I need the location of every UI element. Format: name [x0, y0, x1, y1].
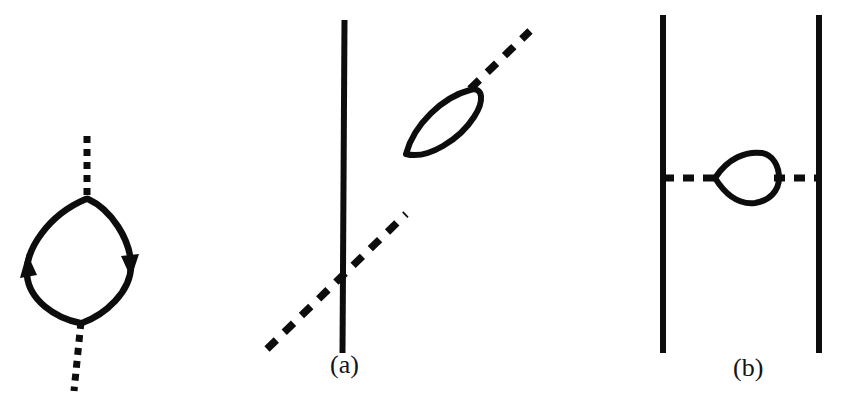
panel-b-label: (b) — [733, 353, 763, 383]
loop-upper-arc-a — [406, 89, 481, 155]
panel-self-energy-bubble — [20, 136, 139, 391]
fermion-loop-left-arc — [27, 199, 86, 323]
arrow-up-icon — [20, 253, 37, 278]
panel-a-label: (a) — [330, 350, 359, 380]
figure-canvas: (a) (b) — [0, 0, 849, 404]
loop-insertion-b — [715, 153, 779, 204]
loop-insertion-a — [406, 89, 481, 155]
dashed-diagonal-lower-a — [267, 214, 406, 349]
panel-b-diagram — [663, 15, 820, 353]
arrow-down-icon — [121, 254, 139, 278]
dashed-diagonal-upper-a — [470, 31, 530, 89]
feynman-diagram-svg — [0, 0, 849, 404]
dashed-line-bottom-icon — [74, 322, 81, 391]
solid-vertical-line-a — [343, 20, 345, 353]
loop-lens-b — [715, 153, 779, 204]
panel-a-diagram — [267, 20, 530, 353]
